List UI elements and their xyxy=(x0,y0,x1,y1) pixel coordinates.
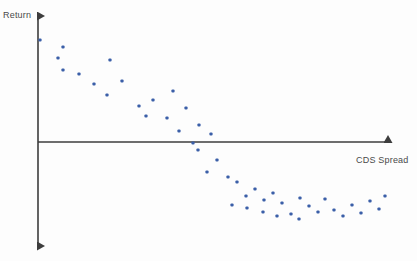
data-point xyxy=(177,129,180,132)
data-point xyxy=(77,72,80,75)
data-point xyxy=(191,141,194,144)
data-point xyxy=(235,180,238,183)
data-point xyxy=(196,148,199,151)
data-point xyxy=(332,208,335,211)
data-point xyxy=(61,45,64,48)
data-point xyxy=(108,58,111,61)
data-point xyxy=(298,196,301,199)
data-point xyxy=(368,199,371,202)
data-point xyxy=(144,114,147,117)
scatter-plot-figure: Return CDS Spread xyxy=(0,0,417,261)
data-point xyxy=(350,203,353,206)
data-point xyxy=(209,132,212,135)
data-points-layer xyxy=(38,38,386,220)
data-point xyxy=(359,211,362,214)
data-point xyxy=(280,201,283,204)
data-point xyxy=(323,197,326,200)
data-point xyxy=(383,194,386,197)
data-point xyxy=(197,123,200,126)
data-point xyxy=(316,210,319,213)
data-point xyxy=(275,214,278,217)
data-point xyxy=(205,170,208,173)
data-point xyxy=(307,204,310,207)
data-point xyxy=(226,175,229,178)
data-point xyxy=(92,82,95,85)
data-point xyxy=(105,93,108,96)
data-point xyxy=(171,89,174,92)
data-point xyxy=(271,191,274,194)
data-point xyxy=(61,68,64,71)
data-point xyxy=(244,194,247,197)
data-point xyxy=(56,56,59,59)
data-point xyxy=(253,187,256,190)
data-point xyxy=(245,206,248,209)
data-point xyxy=(120,79,123,82)
data-point xyxy=(262,198,265,201)
plot-canvas xyxy=(0,0,417,261)
data-point xyxy=(289,212,292,215)
data-point xyxy=(38,38,41,41)
data-point xyxy=(215,158,218,161)
data-point xyxy=(261,210,264,213)
x-axis-label: CDS Spread xyxy=(356,155,409,165)
data-point xyxy=(377,207,380,210)
data-point xyxy=(230,203,233,206)
data-point xyxy=(137,104,140,107)
data-point xyxy=(165,116,168,119)
data-point xyxy=(151,98,154,101)
y-axis-label: Return xyxy=(3,10,31,20)
data-point xyxy=(297,217,300,220)
data-point xyxy=(184,106,187,109)
data-point xyxy=(341,214,344,217)
